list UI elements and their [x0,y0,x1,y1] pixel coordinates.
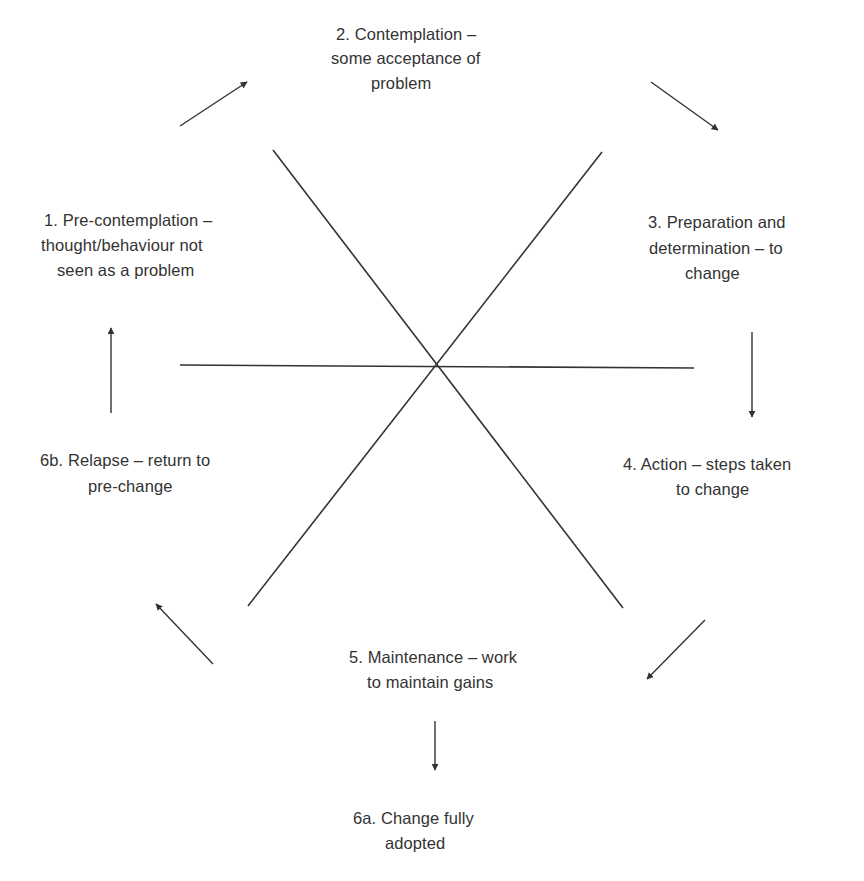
arrow-4-to-5-icon [647,620,705,679]
arrow-2-to-3-icon [651,82,718,130]
stage-3-label-line: 3. Preparation and [648,210,786,235]
stage-2-label-line: 2. Contemplation – [336,22,476,47]
stage-6a-label-line: 6a. Change fully [353,806,474,831]
stage-3-label-line: determination – to [649,236,783,261]
stage-5-label-line: to maintain gains [367,670,493,695]
stage-4-label-line: 4. Action – steps taken [623,452,791,477]
center-spokes [180,150,694,608]
stages-of-change-diagram [0,0,864,881]
stage-1-label-line: thought/behaviour not [41,233,203,258]
arrow-5-to-6b-icon [156,604,213,664]
stage-1-label-line: seen as a problem [57,258,194,283]
stage-6b-label-line: pre-change [88,474,172,499]
stage-2-label-line: some acceptance of [331,46,480,71]
stage-6a-label-line: adopted [385,831,445,856]
stage-3-label-line: change [685,261,740,286]
arrow-1-to-2-icon [180,82,247,126]
diagonal-spoke-ne-sw [248,152,602,606]
stage-5-label-line: 5. Maintenance – work [349,645,517,670]
diagonal-spoke-nw-se [273,150,623,608]
stage-4-label-line: to change [676,477,749,502]
stage-2-label-line: problem [371,71,431,96]
stage-1-label-line: 1. Pre-contemplation – [44,208,212,233]
stage-6b-label-line: 6b. Relapse – return to [40,448,210,473]
